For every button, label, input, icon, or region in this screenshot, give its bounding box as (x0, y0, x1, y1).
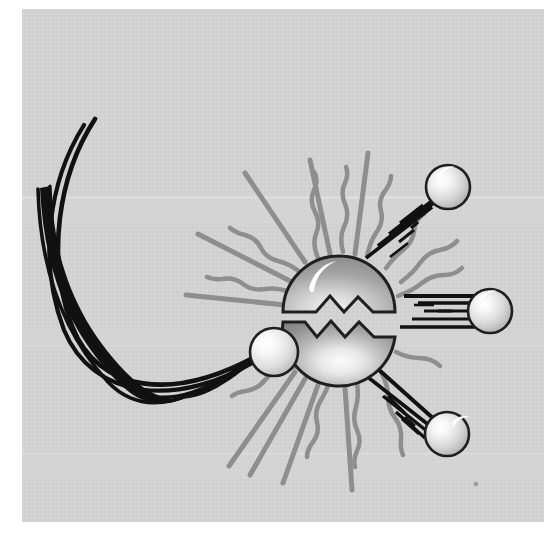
ejected-neutron-lower (425, 412, 470, 456)
incoming-neutron (250, 328, 298, 376)
stray-speck (474, 482, 478, 486)
figure-root: Nuclear fission of an atomic nucleus str… (0, 0, 556, 540)
ejected-neutron-middle (468, 289, 512, 333)
ejected-neutron-upper (426, 165, 470, 209)
nuclear-fission-illustration (0, 0, 556, 540)
